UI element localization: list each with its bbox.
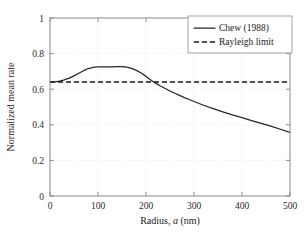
x-tick-label: 500 (283, 201, 298, 211)
legend-box (188, 16, 292, 53)
x-axis-title: Radius, a (nm) (140, 215, 200, 227)
y-axis-title: Normalized mean rate (5, 62, 16, 151)
y-tick-label: 0.4 (32, 120, 44, 130)
x-tick-label: 100 (91, 201, 106, 211)
chart-canvas: 0100200300400500 00.20.40.60.81 Radius, … (0, 0, 308, 240)
legend: Chew (1988) Rayleigh limit (188, 16, 292, 53)
series-chew-1988-line (50, 67, 290, 133)
legend-label-rayleigh-limit: Rayleigh limit (219, 37, 274, 47)
y-tick-label: 0.6 (32, 85, 44, 95)
x-axis-tick-labels: 0100200300400500 (48, 201, 298, 211)
chart-figure: 0100200300400500 00.20.40.60.81 Radius, … (0, 0, 308, 240)
x-tick-label: 200 (139, 201, 154, 211)
y-tick-label: 0.8 (32, 49, 44, 59)
y-axis-tick-labels: 00.20.40.60.81 (32, 14, 44, 202)
x-tick-label: 400 (235, 201, 250, 211)
x-tick-label: 0 (48, 201, 53, 211)
y-tick-label: 0.2 (32, 156, 44, 166)
legend-label-chew-1988: Chew (1988) (219, 23, 269, 34)
x-tick-label: 300 (187, 201, 202, 211)
y-tick-label: 1 (39, 14, 44, 24)
plot-series (50, 67, 290, 133)
y-tick-label: 0 (39, 192, 44, 202)
